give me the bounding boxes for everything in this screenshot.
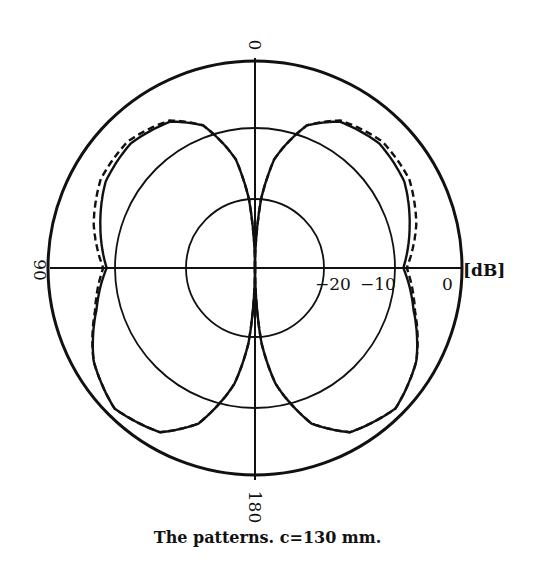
tick-label-minus10: −10 xyxy=(360,274,396,294)
tick-label-0: 0 xyxy=(442,274,453,294)
pattern-curve-dashed-left xyxy=(92,120,255,432)
pattern-curve-solid-left xyxy=(93,122,255,433)
angle-label-90: 90 xyxy=(30,259,50,281)
unit-label: [dB] xyxy=(463,260,505,280)
polar-pattern-chart: 0 90 180 −20 −10 0 [dB] xyxy=(0,0,535,564)
angle-label-0: 0 xyxy=(245,40,265,51)
tick-label-minus20: −20 xyxy=(315,274,351,294)
angle-label-180: 180 xyxy=(245,491,265,523)
figure-caption: The patterns. c=130 mm. xyxy=(0,528,535,547)
